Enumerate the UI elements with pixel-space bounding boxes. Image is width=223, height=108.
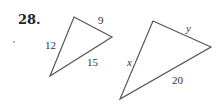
small-side-bottom-label: 15 <box>87 56 98 68</box>
small-side-top-label: 9 <box>98 14 104 26</box>
large-side-left-label: x <box>127 56 132 68</box>
triangles-drawing <box>0 0 223 108</box>
large-side-bottom-label: 20 <box>172 74 183 86</box>
small-side-left-label: 12 <box>45 39 56 51</box>
large-triangle <box>120 21 211 99</box>
similar-triangles-figure: 28. 9 12 15 y x 20 <box>0 0 223 108</box>
large-side-top-label: y <box>186 22 191 34</box>
